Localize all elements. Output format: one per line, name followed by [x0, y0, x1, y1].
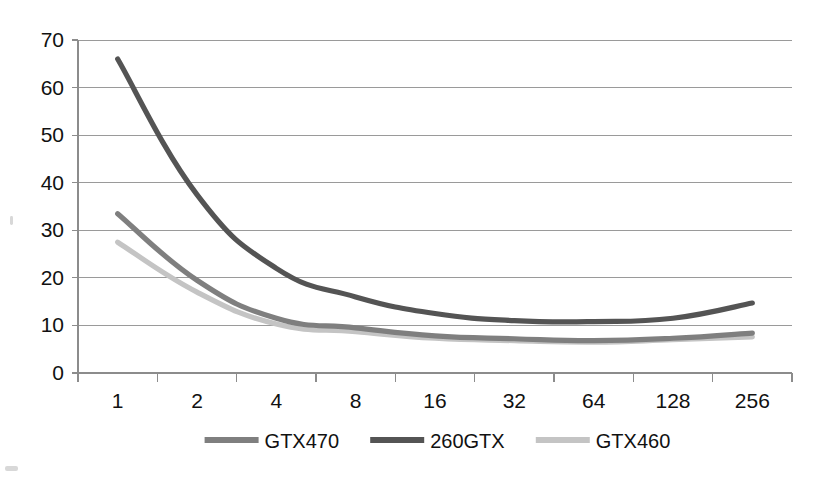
y-tick-label: 60	[41, 76, 64, 99]
y-tick-label: 30	[41, 218, 64, 241]
y-tick-label: 20	[41, 266, 64, 289]
line-chart: 010203040506070 1248163264128256 GTX4702…	[0, 0, 819, 484]
x-tickmarks	[78, 373, 792, 382]
legend-label-gtx460[interactable]: GTX460	[596, 430, 670, 452]
x-axis-tick-labels: 1248163264128256	[112, 389, 770, 412]
y-axis-tick-labels: 010203040506070	[41, 28, 64, 384]
x-tick-label: 256	[735, 389, 770, 412]
legend-label-260gtx[interactable]: 260GTX	[430, 430, 504, 452]
scan-speck-bottom	[5, 466, 18, 471]
gridlines	[72, 40, 792, 373]
x-tick-label: 64	[582, 389, 606, 412]
y-tick-label: 0	[52, 361, 64, 384]
x-tick-label: 8	[350, 389, 362, 412]
chart-legend: GTX470260GTXGTX460	[205, 430, 671, 452]
x-tick-label: 4	[270, 389, 282, 412]
data-series-group	[118, 59, 753, 342]
chart-canvas: 010203040506070 1248163264128256 GTX4702…	[0, 0, 819, 484]
x-tick-label: 1	[112, 389, 124, 412]
x-tick-label: 128	[655, 389, 690, 412]
scan-speck	[10, 216, 13, 225]
y-tick-label: 50	[41, 123, 64, 146]
series-line-260gtx	[118, 59, 753, 322]
y-tick-label: 70	[41, 28, 64, 51]
x-tick-label: 2	[191, 389, 203, 412]
y-tick-label: 40	[41, 171, 64, 194]
x-tick-label: 16	[423, 389, 446, 412]
axes	[78, 40, 792, 373]
legend-label-gtx470[interactable]: GTX470	[265, 430, 339, 452]
y-tick-label: 10	[41, 313, 64, 336]
x-tick-label: 32	[503, 389, 526, 412]
